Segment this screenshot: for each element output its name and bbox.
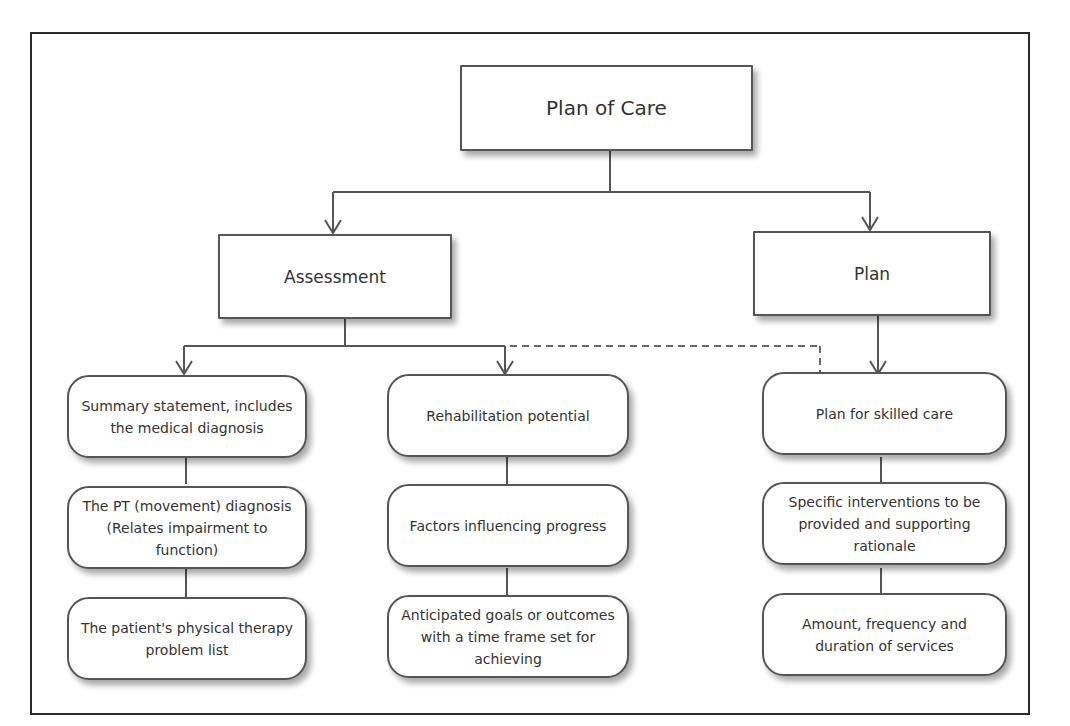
node-amount-frequency-duration: Amount, frequency and duration of servic…	[762, 593, 1007, 676]
node-label: Plan of Care	[546, 96, 667, 120]
node-label: Assessment	[284, 267, 386, 287]
node-rehabilitation-potential: Rehabilitation potential	[387, 374, 629, 457]
node-label: Factors influencing progress	[410, 515, 607, 537]
node-summary-statement: Summary statement, includes the medical …	[67, 375, 307, 458]
node-label: Rehabilitation potential	[426, 405, 589, 427]
node-plan-of-care: Plan of Care	[460, 65, 753, 151]
node-factors-influencing-progress: Factors influencing progress	[387, 484, 629, 567]
node-specific-interventions: Specific interventions to be provided an…	[762, 482, 1007, 565]
node-problem-list: The patient's physical therapy problem l…	[67, 597, 307, 680]
node-plan-for-skilled-care: Plan for skilled care	[762, 372, 1007, 455]
node-plan: Plan	[753, 231, 991, 316]
node-label: The patient's physical therapy problem l…	[79, 617, 295, 661]
node-label: Plan for skilled care	[816, 403, 953, 425]
node-anticipated-goals: Anticipated goals or outcomes with a tim…	[387, 595, 629, 678]
node-pt-diagnosis: The PT (movement) diagnosis (Relates imp…	[67, 486, 307, 569]
node-label: Plan	[854, 264, 890, 284]
node-label: Anticipated goals or outcomes with a tim…	[399, 604, 617, 670]
node-label: Summary statement, includes the medical …	[79, 395, 295, 439]
node-label: The PT (movement) diagnosis (Relates imp…	[79, 495, 295, 561]
node-label: Specific interventions to be provided an…	[774, 491, 995, 557]
node-label: Amount, frequency and duration of servic…	[774, 613, 995, 657]
node-assessment: Assessment	[218, 234, 452, 319]
